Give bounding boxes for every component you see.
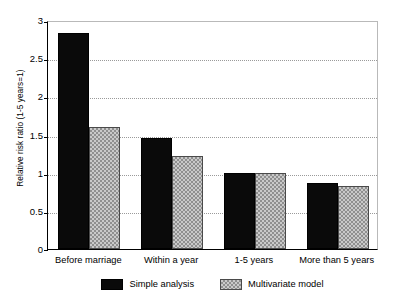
bar xyxy=(255,173,286,249)
bar-group xyxy=(224,22,286,249)
bar-group xyxy=(141,22,203,249)
legend-swatch-icon xyxy=(220,279,242,290)
legend-entry: Simple analysis xyxy=(101,279,194,290)
plot-area xyxy=(47,21,378,250)
bar-group xyxy=(307,22,369,249)
y-axis-tick-label: 3 xyxy=(22,16,43,26)
x-axis-category-label: 1-5 years xyxy=(213,254,296,266)
bar xyxy=(89,127,120,249)
bar-group xyxy=(58,22,120,249)
y-axis-tick-label: 2 xyxy=(22,92,43,102)
y-axis-tick-mark xyxy=(44,250,48,251)
y-axis-tick-labels: 00.511.522.53 xyxy=(22,21,43,250)
bar xyxy=(172,156,203,249)
x-axis-category-labels: Before marriageWithin a year1-5 yearsMor… xyxy=(47,254,378,268)
bar xyxy=(58,33,89,249)
x-axis-category-label: More than 5 years xyxy=(295,254,378,266)
legend-swatch-icon xyxy=(101,279,123,290)
legend-label: Multivariate model xyxy=(248,279,323,290)
bar xyxy=(307,183,338,249)
legend-entry: Multivariate model xyxy=(220,279,323,290)
legend-label: Simple analysis xyxy=(129,279,194,290)
y-axis-tick-label: 1.5 xyxy=(22,131,43,141)
x-axis-category-label: Before marriage xyxy=(47,254,130,266)
y-axis-tick-label: 2.5 xyxy=(22,54,43,64)
bar xyxy=(338,186,369,249)
y-axis-tick-label: 0.5 xyxy=(22,207,43,217)
y-axis-tick-label: 0 xyxy=(22,245,43,255)
bar xyxy=(141,138,172,249)
bar-chart-figure: Relative risk ratio (1-5 years=1) 00.511… xyxy=(0,0,395,302)
chart-legend: Simple analysisMultivariate model xyxy=(47,276,378,292)
x-axis-category-label: Within a year xyxy=(130,254,213,266)
bar xyxy=(224,173,255,249)
y-axis-tick-label: 1 xyxy=(22,169,43,179)
bars-layer xyxy=(48,22,377,249)
